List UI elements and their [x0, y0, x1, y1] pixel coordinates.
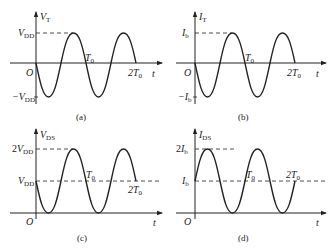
y-axis-label: IDS	[198, 129, 211, 142]
panel-caption: (b)	[238, 112, 249, 122]
y-axis-label: VDS	[40, 129, 55, 142]
mid-level-label: VDD	[18, 175, 34, 188]
waveform-figure: VT VDD −VDD O T0 2T0 t (a) IT Ib −Ib O T…	[0, 0, 332, 248]
upper-level-label: Ib	[181, 27, 189, 40]
y-axis-label: IT	[198, 11, 207, 24]
panel-caption: (a)	[76, 112, 86, 122]
end-tick-label: 2T0	[287, 67, 302, 80]
panel-a: VT VDD −VDD O T0 2T0 t (a)	[10, 11, 162, 122]
waveform-curve	[195, 33, 295, 97]
panel-d: IDS 2Ib Ib O T0 2T0 t (d)	[176, 129, 326, 243]
lower-level-label: −Ib	[178, 91, 192, 104]
waveform-curve	[36, 33, 136, 97]
origin-label: O	[184, 216, 191, 227]
end-tick-label: 2T0	[128, 184, 143, 197]
origin-label: O	[26, 216, 33, 227]
y-axis-label: VT	[40, 11, 51, 24]
x-axis-label: t	[316, 68, 319, 79]
x-axis-label: t	[152, 68, 155, 79]
upper-level-label: 2Ib	[176, 143, 188, 156]
origin-label: O	[26, 67, 33, 78]
upper-level-label: VDD	[18, 27, 34, 40]
end-tick-label: 2T0	[286, 169, 301, 182]
origin-label: O	[184, 67, 191, 78]
mid-level-label: Ib	[181, 175, 189, 188]
panel-caption: (c)	[77, 233, 87, 243]
x-axis-label: t	[316, 217, 319, 228]
panel-caption: (d)	[238, 233, 249, 243]
end-tick-label: 2T0	[128, 67, 143, 80]
mid-tick-label: T0	[86, 169, 96, 182]
lower-level-label: −VDD	[12, 91, 35, 104]
mid-tick-label: T0	[246, 169, 256, 182]
panel-b: IT Ib −Ib O T0 2T0 t (b)	[176, 11, 326, 122]
upper-level-label: 2VDD	[12, 143, 33, 156]
x-axis-label: t	[153, 217, 156, 228]
panel-c: VDS 2VDD VDD O T0 2T0 t (c)	[10, 129, 162, 243]
